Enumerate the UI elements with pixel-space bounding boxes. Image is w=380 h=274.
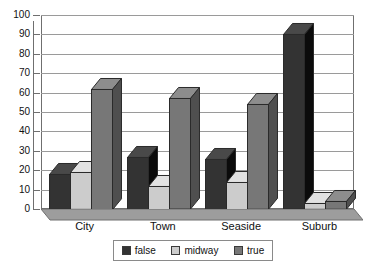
x-axis-label-seaside: Seaside bbox=[221, 220, 261, 232]
y-axis-tick-label: 20 bbox=[19, 165, 30, 175]
gridline bbox=[41, 15, 354, 16]
legend-label-midway: midway bbox=[184, 246, 218, 256]
x-axis-label-city: City bbox=[75, 220, 94, 232]
x-axis-label-suburb: Suburb bbox=[302, 220, 337, 232]
legend-item-true[interactable]: true bbox=[234, 246, 264, 256]
legend-swatch-midway bbox=[171, 246, 180, 255]
y-axis-tick-label: 0 bbox=[24, 204, 30, 214]
legend-label-false: false bbox=[135, 246, 156, 256]
legend-swatch-false bbox=[122, 246, 131, 255]
y-axis-tick bbox=[33, 34, 40, 35]
y-axis: 0102030405060708090100 bbox=[33, 21, 41, 209]
y-axis-tick-label: 100 bbox=[13, 10, 30, 20]
y-axis-tick bbox=[33, 54, 40, 55]
bar-city-true bbox=[91, 89, 112, 209]
y-axis-tick-label: 90 bbox=[19, 29, 30, 39]
chart-floor bbox=[41, 209, 363, 219]
legend-item-midway[interactable]: midway bbox=[171, 246, 218, 256]
y-axis-line bbox=[33, 21, 34, 209]
bar-seaside-true bbox=[247, 104, 268, 209]
y-axis-tick-label: 70 bbox=[19, 68, 30, 78]
y-axis-tick-label: 30 bbox=[19, 146, 30, 156]
bar-suburb-true bbox=[325, 201, 346, 209]
y-axis-tick bbox=[33, 15, 40, 16]
y-axis-tick bbox=[33, 131, 40, 132]
y-axis-tick bbox=[33, 190, 40, 191]
chart-legend: falsemidwaytrue bbox=[113, 240, 273, 261]
bar-town-midway bbox=[148, 186, 169, 209]
y-axis-tick bbox=[33, 170, 40, 171]
y-axis-tick-label: 80 bbox=[19, 49, 30, 59]
y-axis-tick-label: 10 bbox=[19, 185, 30, 195]
y-axis-tick bbox=[33, 209, 40, 210]
y-axis-tick bbox=[33, 151, 40, 152]
bar-city-midway bbox=[70, 172, 91, 209]
legend-swatch-true bbox=[234, 246, 243, 255]
bar-suburb-false bbox=[283, 34, 304, 209]
y-axis-tick bbox=[33, 112, 40, 113]
legend-item-false[interactable]: false bbox=[122, 246, 156, 256]
bar-town-true bbox=[169, 98, 190, 209]
plot-area: 0102030405060708090100 bbox=[41, 15, 354, 209]
y-axis-tick bbox=[33, 73, 40, 74]
bar-seaside-midway bbox=[226, 182, 247, 209]
bar-town-false bbox=[127, 157, 148, 209]
bar-seaside-false bbox=[205, 159, 226, 209]
legend-label-true: true bbox=[247, 246, 264, 256]
y-axis-tick bbox=[33, 93, 40, 94]
bar-chart: 0102030405060708090100 CityTownSeasideSu… bbox=[0, 0, 380, 274]
y-axis-tick-label: 60 bbox=[19, 88, 30, 98]
bar-city-false bbox=[49, 174, 70, 209]
y-axis-tick-label: 50 bbox=[19, 107, 30, 117]
y-axis-tick-label: 40 bbox=[19, 126, 30, 136]
x-axis-label-town: Town bbox=[150, 220, 176, 232]
